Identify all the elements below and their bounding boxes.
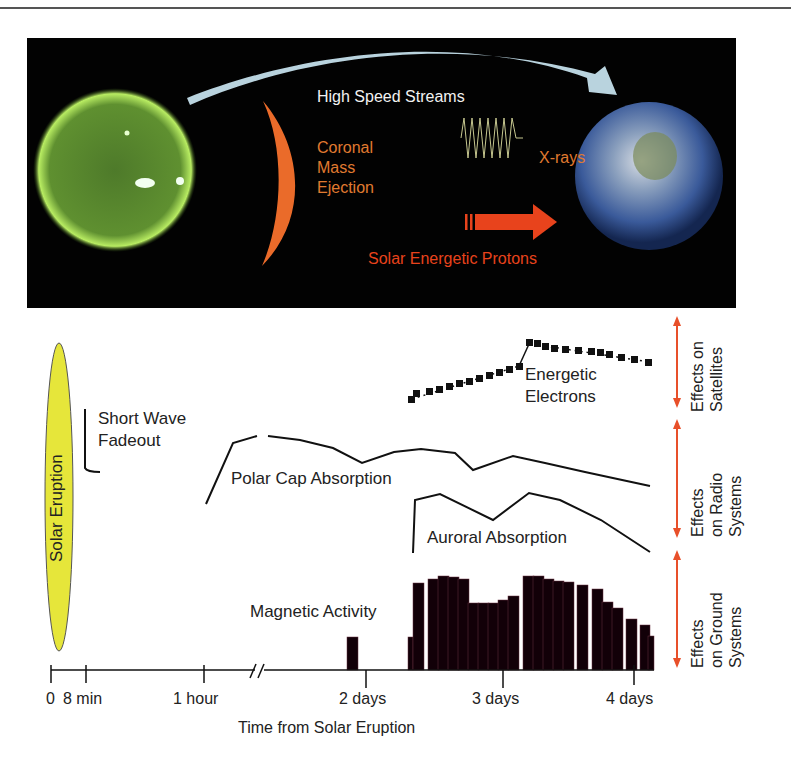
- magnetic-activity-bars: [347, 576, 654, 670]
- effects-line: Effects on: [688, 341, 707, 412]
- tick-4days: 4 days: [606, 690, 653, 708]
- sun-earth-panel: High Speed Streams Coronal Mass Ejection…: [27, 38, 736, 308]
- xrays-label: X-rays: [539, 149, 585, 167]
- tick-3days: 3 days: [472, 690, 519, 708]
- effects-line: Systems: [726, 592, 745, 668]
- cme-label-line: Coronal: [317, 138, 374, 158]
- tick-2days: 2 days: [339, 690, 386, 708]
- high-speed-streams-label: High Speed Streams: [317, 88, 465, 106]
- short-wave-line: Short Wave: [98, 408, 186, 430]
- effects-line: Effects: [688, 473, 707, 537]
- cme-crescent-icon: [262, 101, 295, 266]
- axis-title: Time from Solar Eruption: [238, 719, 415, 737]
- effects-satellites-label: Effects on Satellites: [688, 341, 726, 412]
- time-axis: [51, 664, 654, 688]
- effect-arrows: [673, 316, 681, 668]
- cme-label-line: Ejection: [317, 178, 374, 198]
- earth-icon: [575, 102, 723, 250]
- effects-line: on Ground: [707, 592, 726, 668]
- short-wave-line: Fadeout: [98, 430, 186, 452]
- effects-line: Effects: [688, 592, 707, 668]
- short-wave-fadeout-label: Short Wave Fadeout: [98, 408, 186, 452]
- xray-wave-icon: [461, 118, 523, 158]
- effects-line: Systems: [726, 473, 745, 537]
- proton-arrow-icon: [465, 204, 557, 240]
- sun-icon: [33, 88, 197, 252]
- solar-eruption-label: Solar Eruption: [47, 454, 67, 562]
- effects-ground-label: Effects on Ground Systems: [688, 592, 745, 668]
- effects-line: on Radio: [707, 473, 726, 537]
- auroral-label: Auroral Absorption: [427, 528, 567, 548]
- tick-8min: 8 min: [63, 690, 102, 708]
- cme-label: Coronal Mass Ejection: [317, 138, 374, 198]
- effects-line: Satellites: [707, 341, 726, 412]
- effects-radio-label: Effects on Radio Systems: [688, 473, 745, 537]
- cme-label-line: Mass: [317, 158, 374, 178]
- protons-label: Solar Energetic Protons: [368, 250, 537, 268]
- tick-1hour: 1 hour: [173, 690, 218, 708]
- tick-0: 0: [46, 690, 55, 708]
- magnetic-activity-label: Magnetic Activity: [250, 602, 377, 622]
- energetic-electrons-label: Energetic Electrons: [525, 364, 597, 408]
- polar-cap-label: Polar Cap Absorption: [231, 469, 392, 489]
- top-rule: [0, 7, 791, 9]
- energetic-line: Electrons: [525, 386, 597, 408]
- energetic-line: Energetic: [525, 364, 597, 386]
